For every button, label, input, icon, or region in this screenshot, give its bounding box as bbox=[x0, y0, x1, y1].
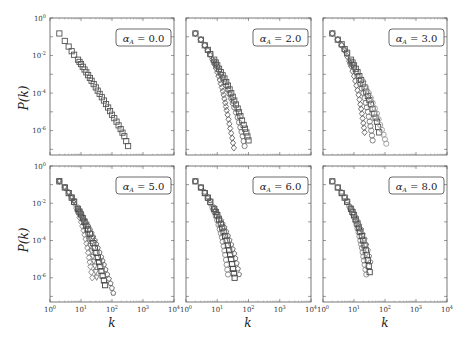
x-tick-label: 102 bbox=[379, 304, 391, 314]
x-tick-label: 102 bbox=[242, 304, 254, 314]
x-axis-label-col2: k bbox=[244, 316, 251, 330]
panels-grid: 10010-210-410-6αA = 0.0αA = 2.0αA = 3.01… bbox=[32, 13, 453, 315]
panel-alpha-2.0: αA = 2.0 bbox=[186, 18, 311, 155]
panel-alpha-8.0: 100101102103104αA = 8.0 bbox=[317, 166, 453, 314]
figure-caption bbox=[12, 338, 462, 344]
panel-alpha-3.0: αA = 3.0 bbox=[323, 18, 447, 155]
x-tick-label: 100 bbox=[180, 304, 192, 314]
y-tick-label: 100 bbox=[34, 13, 46, 23]
panel-label: αA = 2.0 bbox=[260, 33, 302, 45]
panel-label: αA = 6.0 bbox=[260, 181, 302, 193]
y-tick-label: 10-2 bbox=[32, 198, 46, 208]
x-axis-label-col3: k bbox=[381, 316, 388, 330]
panel-label: αA = 8.0 bbox=[396, 181, 438, 193]
panel-label: αA = 5.0 bbox=[123, 181, 165, 193]
panel-alpha-6.0: 100101102103104αA = 6.0 bbox=[180, 166, 317, 314]
panel-alpha-0.0: 10010-210-410-6αA = 0.0 bbox=[32, 13, 174, 156]
x-tick-label: 103 bbox=[137, 304, 149, 314]
y-tick-label: 10-6 bbox=[32, 125, 46, 135]
x-tick-label: 101 bbox=[75, 304, 87, 314]
panel-alpha-5.0: 10010-210-410-6100101102103104αA = 5.0 bbox=[32, 161, 180, 315]
y-tick-label: 10-4 bbox=[32, 88, 46, 98]
x-tick-label: 103 bbox=[410, 304, 422, 314]
x-tick-label: 104 bbox=[168, 304, 180, 314]
x-tick-label: 101 bbox=[348, 304, 360, 314]
y-tick-label: 10-6 bbox=[32, 272, 46, 282]
x-tick-label: 104 bbox=[441, 304, 453, 314]
x-tick-label: 100 bbox=[317, 304, 329, 314]
x-tick-label: 103 bbox=[274, 304, 286, 314]
x-tick-label: 104 bbox=[305, 304, 317, 314]
x-tick-label: 100 bbox=[44, 304, 56, 314]
panel-label: αA = 0.0 bbox=[123, 33, 165, 45]
x-tick-label: 101 bbox=[211, 304, 223, 314]
y-axis-label-bottom: P(k) bbox=[17, 227, 31, 253]
y-tick-label: 10-2 bbox=[32, 50, 46, 60]
x-tick-label: 102 bbox=[106, 304, 118, 314]
y-tick-label: 10-4 bbox=[32, 235, 46, 245]
y-tick-label: 100 bbox=[34, 161, 46, 171]
figure: 10010-210-410-6αA = 0.0αA = 2.0αA = 3.01… bbox=[0, 0, 467, 344]
panel-label: αA = 3.0 bbox=[396, 33, 438, 45]
y-axis-label-top: P(k) bbox=[17, 85, 31, 111]
x-axis-label-col1: k bbox=[108, 316, 115, 330]
